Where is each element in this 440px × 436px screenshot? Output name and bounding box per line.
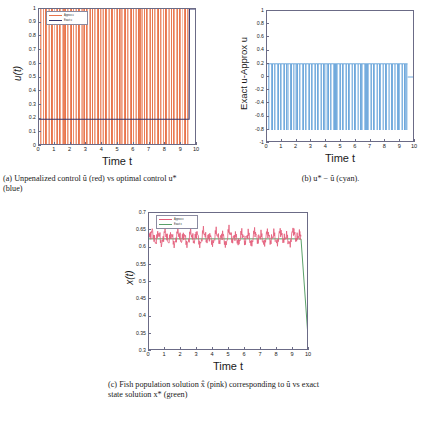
tick-mark — [266, 102, 269, 103]
tick-mark — [340, 139, 341, 142]
tick-mark — [355, 139, 356, 142]
legend-label-exact-x: Exact x — [174, 223, 182, 226]
axis-tick-label: 0.1 — [14, 128, 36, 134]
tick-mark — [180, 347, 181, 350]
tick-mark — [244, 347, 245, 350]
axis-tick-label: -0.4 — [242, 99, 264, 105]
panel-c-caption: (c) Fish population solution x̂ (pink) c… — [108, 380, 330, 401]
tick-mark — [85, 142, 86, 145]
axis-tick-label: 0.65 — [124, 226, 146, 232]
tick-mark — [148, 347, 149, 350]
tick-mark — [310, 139, 311, 142]
tick-mark — [281, 139, 282, 142]
tick-mark — [180, 142, 181, 145]
tick-mark — [54, 142, 55, 145]
tick-mark — [384, 139, 385, 142]
axis-tick-label: 10 — [405, 143, 423, 149]
tick-mark — [266, 63, 269, 64]
axis-tick-label: 0.6 — [14, 60, 36, 66]
legend-label-approx-u: Approx u — [64, 14, 74, 17]
tick-mark — [370, 139, 371, 142]
diff-tail — [267, 11, 414, 142]
tick-mark — [38, 131, 41, 132]
tick-mark — [308, 347, 309, 350]
tick-mark — [38, 77, 41, 78]
panel-c-legend: Approx x Exact x — [156, 215, 198, 229]
tick-mark — [292, 347, 293, 350]
tick-mark — [196, 142, 197, 145]
panel-b: Exact u-Approx u -1-0.8-0.6-0.4-0.200.20… — [218, 0, 440, 200]
axis-tick-label: 0.55 — [124, 261, 146, 267]
tick-mark — [149, 142, 150, 145]
tick-mark — [148, 247, 151, 248]
tick-mark — [266, 116, 269, 117]
legend-row-exact-u: Exact u — [49, 18, 85, 23]
legend-label-exact-u: Exact u — [64, 19, 72, 22]
legend-row-exact-x: Exact x — [159, 222, 195, 227]
axis-tick-label: 0 — [242, 73, 264, 79]
tick-mark — [148, 281, 151, 282]
tick-mark — [101, 142, 102, 145]
tick-mark — [148, 333, 151, 334]
tick-mark — [266, 89, 269, 90]
legend-swatch-exact-x — [159, 224, 172, 225]
axis-tick-label: 0.7 — [124, 209, 146, 215]
tick-mark — [148, 316, 151, 317]
axis-tick-label: 0.7 — [14, 46, 36, 52]
axis-tick-label: 0.35 — [124, 330, 146, 336]
tick-mark — [117, 142, 118, 145]
tick-mark — [148, 298, 151, 299]
tick-mark — [196, 347, 197, 350]
tick-mark — [266, 10, 269, 11]
tick-mark — [212, 347, 213, 350]
tick-mark — [399, 139, 400, 142]
axis-tick-label: 10 — [299, 351, 317, 357]
panel-a-plot-area — [38, 8, 196, 145]
legend-swatch-approx-u — [49, 15, 62, 16]
tick-mark — [38, 8, 41, 9]
tick-mark — [164, 347, 165, 350]
panel-c: x(t) Approx x Exact x 0.30.350.40.450.50… — [108, 200, 358, 436]
axis-tick-label: 1 — [14, 5, 36, 11]
tick-mark — [148, 264, 151, 265]
axis-tick-label: 0.8 — [242, 20, 264, 26]
tick-mark — [38, 35, 41, 36]
axis-tick-label: 0.5 — [124, 278, 146, 284]
tick-mark — [276, 347, 277, 350]
tick-mark — [148, 229, 151, 230]
tick-mark — [38, 118, 41, 119]
legend-label-approx-x: Approx x — [174, 218, 183, 221]
exact-u-line — [39, 9, 196, 145]
tick-mark — [325, 139, 326, 142]
axis-tick-label: 10 — [187, 146, 205, 152]
tick-mark — [260, 347, 261, 350]
legend-swatch-approx-x — [159, 219, 172, 220]
tick-mark — [296, 139, 297, 142]
tick-mark — [266, 36, 269, 37]
axis-tick-label: 0.6 — [242, 33, 264, 39]
axis-tick-label: 0.8 — [14, 32, 36, 38]
panel-a-caption: (a) Unpenalized control û (red) vs optim… — [3, 174, 198, 195]
tick-mark — [38, 90, 41, 91]
axis-tick-label: 0.4 — [242, 46, 264, 52]
panel-b-plot-area — [266, 10, 414, 142]
axis-tick-label: 0.4 — [14, 87, 36, 93]
tick-mark — [133, 142, 134, 145]
axis-tick-label: 0.6 — [124, 243, 146, 249]
axis-tick-label: 0.4 — [124, 312, 146, 318]
tick-mark — [414, 139, 415, 142]
tick-mark — [70, 142, 71, 145]
axis-tick-label: 1 — [242, 7, 264, 13]
axis-tick-label: 0.45 — [124, 295, 146, 301]
panel-c-plot-area — [148, 212, 308, 350]
axis-tick-label: 0.2 — [14, 114, 36, 120]
tick-mark — [38, 63, 41, 64]
tick-mark — [228, 347, 229, 350]
panel-b-x-axis-label: Time t — [266, 152, 414, 164]
tick-mark — [148, 212, 151, 213]
tick-mark — [266, 50, 269, 51]
panel-a-x-axis-label: Time t — [38, 155, 196, 167]
axis-tick-label: 0.9 — [14, 18, 36, 24]
tick-mark — [266, 76, 269, 77]
axis-tick-label: -0.8 — [242, 126, 264, 132]
